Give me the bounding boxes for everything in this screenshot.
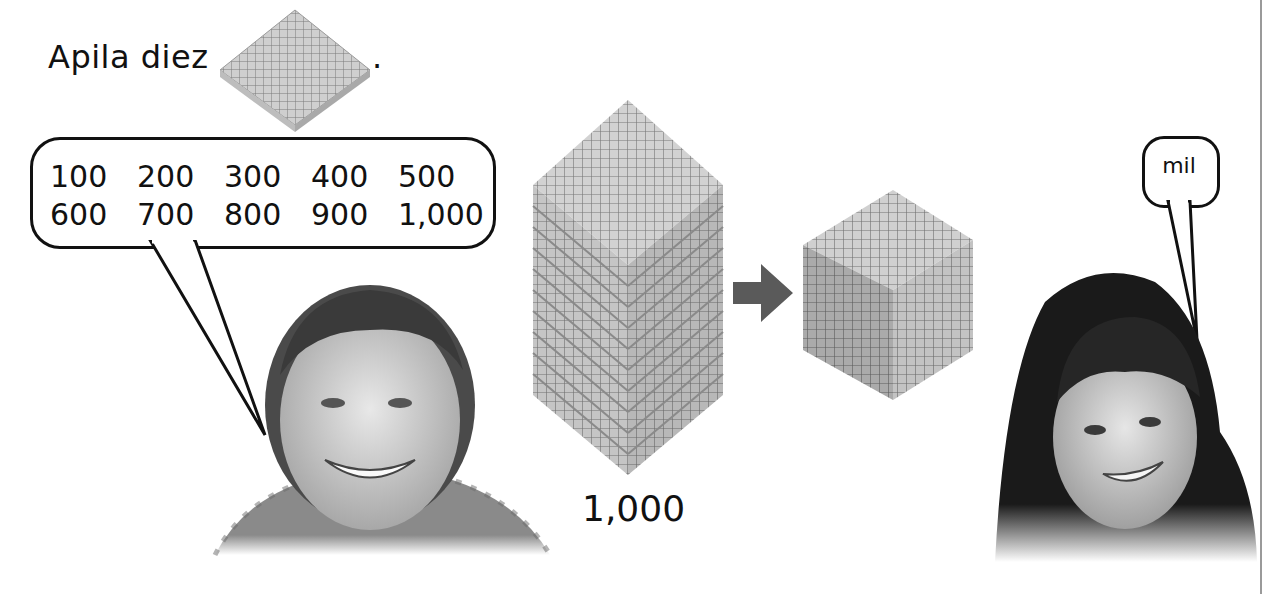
count-900: 900 bbox=[311, 196, 398, 234]
count-600: 600 bbox=[50, 196, 137, 234]
stack-of-ten-flats bbox=[528, 95, 728, 480]
page-edge-rule bbox=[1260, 0, 1262, 594]
girl-photo bbox=[985, 262, 1260, 567]
boy-photo bbox=[205, 255, 555, 560]
count-800: 800 bbox=[224, 196, 311, 234]
speech-text-mil: mil bbox=[1152, 153, 1206, 178]
stack-caption: 1,000 bbox=[582, 488, 685, 529]
count-200: 200 bbox=[137, 158, 224, 196]
instruction-period: . bbox=[372, 38, 382, 76]
count-300: 300 bbox=[224, 158, 311, 196]
count-1000: 1,000 bbox=[398, 196, 485, 234]
count-700: 700 bbox=[137, 196, 224, 234]
counting-numbers: 100 200 300 400 500 600 700 800 900 1,00… bbox=[50, 158, 485, 234]
count-400: 400 bbox=[311, 158, 398, 196]
instruction-text: Apila diez bbox=[48, 38, 208, 76]
count-100: 100 bbox=[50, 158, 137, 196]
right-arrow-icon bbox=[733, 262, 795, 324]
count-500: 500 bbox=[398, 158, 485, 196]
hundreds-flat-icon bbox=[215, 5, 375, 135]
thousand-cube-icon bbox=[798, 185, 976, 405]
